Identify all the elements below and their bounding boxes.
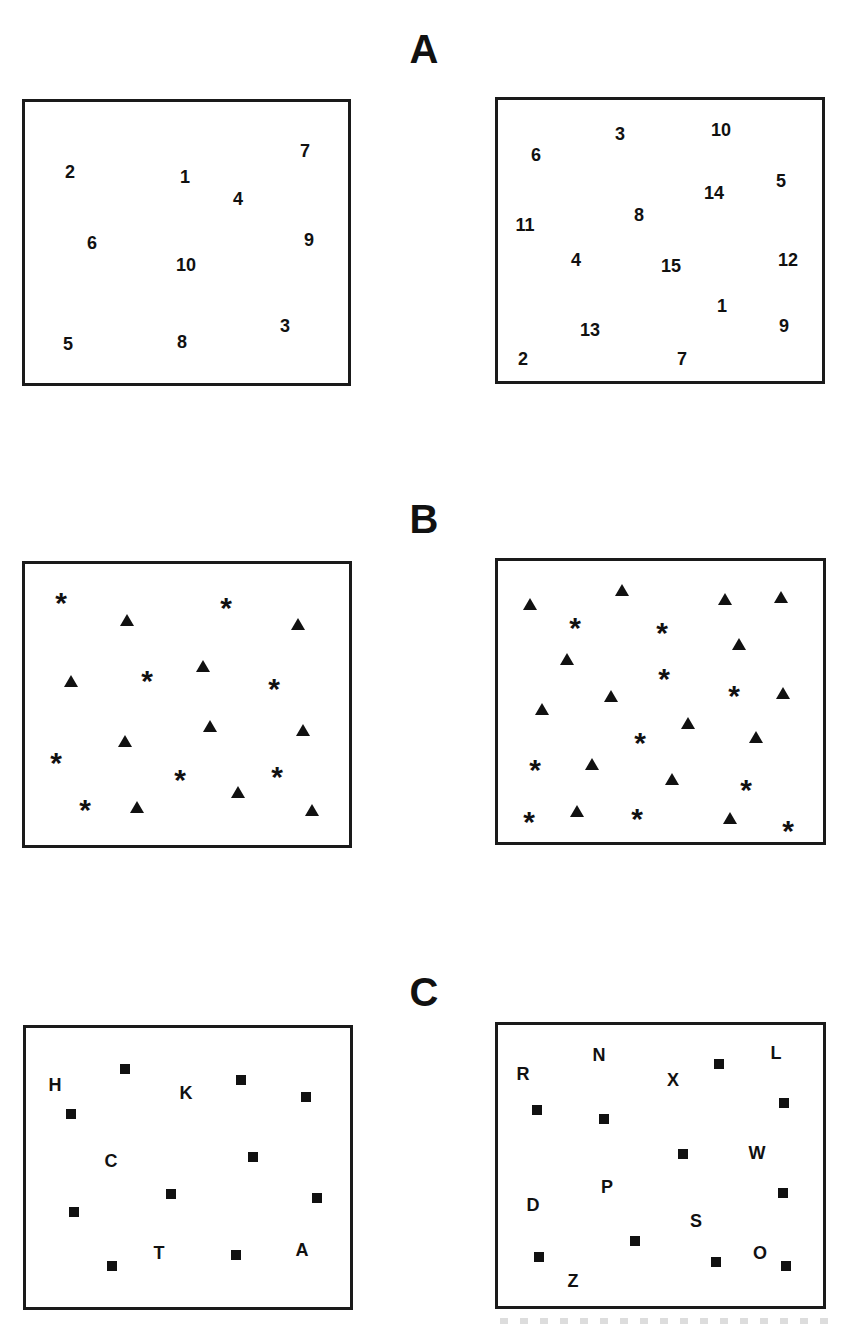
letter-label: A bbox=[296, 1241, 309, 1259]
number-label: 10 bbox=[176, 256, 196, 274]
letter-label: L bbox=[771, 1044, 782, 1062]
section-label-a: A bbox=[410, 29, 439, 69]
number-label: 3 bbox=[280, 317, 290, 335]
letter-label: O bbox=[753, 1244, 767, 1262]
triangle-icon bbox=[120, 614, 134, 626]
asterisk-icon: * bbox=[268, 674, 280, 704]
number-label: 8 bbox=[177, 333, 187, 351]
panel-b-left bbox=[22, 561, 352, 848]
square-icon bbox=[236, 1075, 246, 1085]
number-label: 13 bbox=[580, 321, 600, 339]
letter-label: D bbox=[527, 1196, 540, 1214]
letter-label: P bbox=[601, 1178, 613, 1196]
number-label: 8 bbox=[634, 206, 644, 224]
square-icon bbox=[532, 1105, 542, 1115]
asterisk-icon: * bbox=[271, 762, 283, 792]
triangle-icon bbox=[585, 758, 599, 770]
letter-label: H bbox=[49, 1076, 62, 1094]
square-icon bbox=[711, 1257, 721, 1267]
square-icon bbox=[778, 1188, 788, 1198]
number-label: 15 bbox=[661, 257, 681, 275]
number-label: 7 bbox=[677, 350, 687, 368]
square-icon bbox=[781, 1261, 791, 1271]
asterisk-icon: * bbox=[658, 664, 670, 694]
triangle-icon bbox=[296, 724, 310, 736]
letter-label: R bbox=[517, 1065, 530, 1083]
triangle-icon bbox=[64, 675, 78, 687]
panel-a-right bbox=[495, 97, 825, 384]
square-icon bbox=[231, 1250, 241, 1260]
square-icon bbox=[599, 1114, 609, 1124]
triangle-icon bbox=[570, 805, 584, 817]
square-icon bbox=[714, 1059, 724, 1069]
section-label-b: B bbox=[410, 499, 439, 539]
square-icon bbox=[69, 1207, 79, 1217]
number-label: 11 bbox=[515, 216, 534, 234]
square-icon bbox=[301, 1092, 311, 1102]
square-icon bbox=[678, 1149, 688, 1159]
square-icon bbox=[166, 1189, 176, 1199]
square-icon bbox=[312, 1193, 322, 1203]
number-label: 6 bbox=[531, 146, 541, 164]
asterisk-icon: * bbox=[79, 795, 91, 825]
number-label: 2 bbox=[518, 350, 528, 368]
asterisk-icon: * bbox=[523, 807, 535, 837]
square-icon bbox=[107, 1261, 117, 1271]
triangle-icon bbox=[523, 598, 537, 610]
asterisk-icon: * bbox=[631, 804, 643, 834]
asterisk-icon: * bbox=[634, 728, 646, 758]
number-label: 9 bbox=[304, 231, 314, 249]
triangle-icon bbox=[749, 731, 763, 743]
triangle-icon bbox=[560, 653, 574, 665]
number-label: 10 bbox=[711, 121, 731, 139]
panel-c-right bbox=[495, 1022, 826, 1309]
triangle-icon bbox=[665, 773, 679, 785]
square-icon bbox=[534, 1252, 544, 1262]
letter-label: Z bbox=[568, 1272, 579, 1290]
triangle-icon bbox=[776, 687, 790, 699]
number-label: 9 bbox=[779, 317, 789, 335]
triangle-icon bbox=[203, 720, 217, 732]
asterisk-icon: * bbox=[728, 681, 740, 711]
number-label: 4 bbox=[233, 190, 243, 208]
letter-label: S bbox=[690, 1212, 702, 1230]
cropped-caption-text bbox=[500, 1318, 840, 1324]
number-label: 4 bbox=[571, 251, 581, 269]
triangle-icon bbox=[118, 735, 132, 747]
triangle-icon bbox=[196, 660, 210, 672]
triangle-icon bbox=[535, 703, 549, 715]
square-icon bbox=[779, 1098, 789, 1108]
number-label: 5 bbox=[776, 172, 786, 190]
triangle-icon bbox=[615, 584, 629, 596]
number-label: 14 bbox=[704, 184, 724, 202]
letter-label: X bbox=[667, 1071, 679, 1089]
square-icon bbox=[630, 1236, 640, 1246]
triangle-icon bbox=[774, 591, 788, 603]
letter-label: W bbox=[749, 1144, 766, 1162]
square-icon bbox=[66, 1109, 76, 1119]
letter-label: N bbox=[593, 1046, 606, 1064]
triangle-icon bbox=[291, 618, 305, 630]
letter-label: K bbox=[180, 1084, 193, 1102]
letter-label: T bbox=[154, 1244, 165, 1262]
triangle-icon bbox=[723, 812, 737, 824]
asterisk-icon: * bbox=[656, 618, 668, 648]
asterisk-icon: * bbox=[50, 748, 62, 778]
letter-label: C bbox=[105, 1152, 118, 1170]
asterisk-icon: * bbox=[141, 666, 153, 696]
square-icon bbox=[120, 1064, 130, 1074]
triangle-icon bbox=[130, 801, 144, 813]
number-label: 6 bbox=[87, 234, 97, 252]
number-label: 7 bbox=[300, 142, 310, 160]
triangle-icon bbox=[604, 690, 618, 702]
asterisk-icon: * bbox=[782, 816, 794, 846]
triangle-icon bbox=[732, 638, 746, 650]
triangle-icon bbox=[718, 593, 732, 605]
triangle-icon bbox=[681, 717, 695, 729]
square-icon bbox=[248, 1152, 258, 1162]
number-label: 2 bbox=[65, 163, 75, 181]
triangle-icon bbox=[305, 804, 319, 816]
number-label: 1 bbox=[717, 297, 727, 315]
panel-c-left bbox=[23, 1025, 353, 1310]
triangle-icon bbox=[231, 786, 245, 798]
